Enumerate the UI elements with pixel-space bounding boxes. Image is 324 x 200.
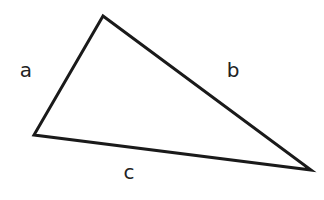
- side-label-b: b: [227, 58, 240, 82]
- triangle-diagram: a b c: [0, 0, 324, 200]
- triangle-shape: [34, 16, 311, 170]
- side-label-c: c: [124, 160, 135, 184]
- side-label-a: a: [20, 58, 32, 82]
